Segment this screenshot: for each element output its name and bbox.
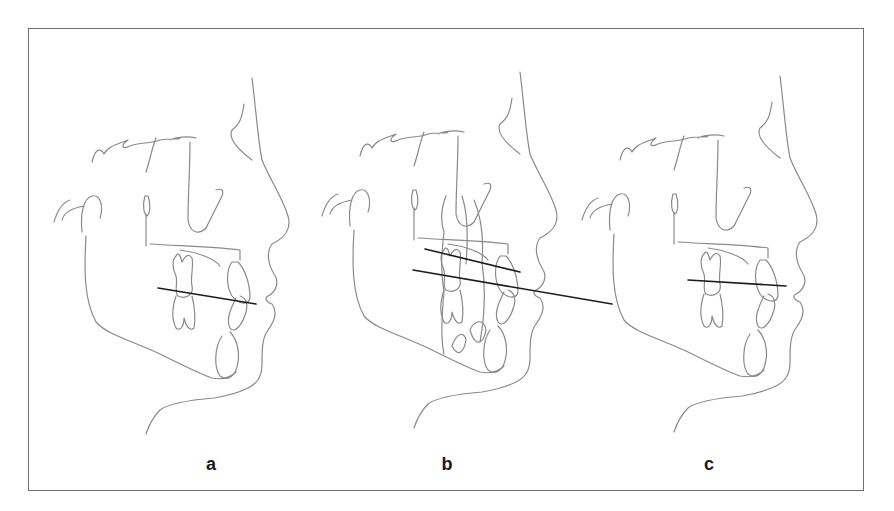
panel-label-a: a	[196, 454, 226, 475]
panel-label-c: c	[694, 454, 724, 475]
occlusal-plane-line-c	[688, 280, 786, 286]
cephalometric-tracings	[0, 0, 894, 511]
panel-label-b: b	[432, 454, 462, 475]
tracing-panel-a	[54, 78, 289, 434]
tracing-panel-c	[582, 76, 817, 432]
tracing-panel-b	[322, 72, 612, 428]
occlusal-plane-line-b-upper	[425, 249, 520, 272]
